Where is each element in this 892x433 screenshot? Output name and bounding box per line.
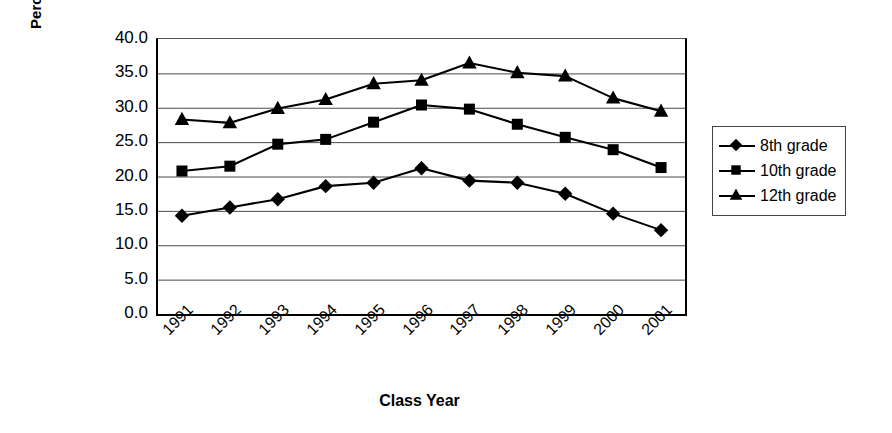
legend-key-square-icon <box>718 161 756 181</box>
x-axis-title: Class Year <box>156 392 683 410</box>
y-axis-tick-label: 15.0 <box>90 201 148 218</box>
y-axis-tick-label: 40.0 <box>90 29 148 46</box>
data-point-marker <box>462 173 476 187</box>
data-point-marker <box>608 144 619 155</box>
data-point-marker <box>656 162 667 173</box>
data-point-marker <box>414 161 428 175</box>
data-point-marker <box>318 179 332 193</box>
data-point-marker <box>368 117 379 128</box>
legend-key-triangle-icon <box>718 186 756 206</box>
data-point-marker <box>730 139 742 151</box>
data-point-marker <box>175 208 189 222</box>
data-point-marker <box>464 104 475 115</box>
y-axis-tick-label: 10.0 <box>90 235 148 252</box>
square-marker-icon <box>730 164 742 176</box>
legend-item-label: 10th grade <box>756 162 837 180</box>
series-3 <box>175 55 669 128</box>
data-point-marker <box>558 186 572 200</box>
series-line <box>182 63 661 123</box>
y-axis-tick-label: 30.0 <box>90 98 148 115</box>
legend-key-diamond-icon <box>718 136 756 156</box>
legend-item-10th-grade: 10th grade <box>718 158 837 183</box>
plot-area <box>156 38 687 316</box>
legend-item-8th-grade: 8th grade <box>718 133 837 158</box>
y-axis-title-line-1: Percent Smoking in Past <box>26 0 45 29</box>
data-point-marker <box>512 119 523 130</box>
y-axis-tick-label: 0.0 <box>90 304 148 321</box>
data-point-marker <box>366 175 380 189</box>
y-axis-title: Percent Smoking in Past Month <box>14 0 76 86</box>
data-point-marker <box>560 132 571 143</box>
data-point-marker <box>462 55 476 68</box>
data-point-marker <box>176 166 187 177</box>
data-point-marker <box>271 192 285 206</box>
data-point-marker <box>510 175 524 189</box>
data-point-marker <box>606 91 620 104</box>
x-axis-tick-labels: 1991199219931994199519961997199819992000… <box>156 318 683 378</box>
data-point-marker <box>730 189 742 200</box>
chart-legend: 8th grade10th grade12th grade <box>712 126 846 216</box>
data-point-marker <box>223 200 237 214</box>
series-1 <box>175 161 668 237</box>
y-axis-tick-labels: 40.035.030.025.020.015.010.05.00.0 <box>82 0 148 433</box>
plot-svg <box>158 39 685 314</box>
triangle-marker-icon <box>730 189 742 201</box>
y-axis-tick-label: 20.0 <box>90 167 148 184</box>
y-axis-tick-label: 5.0 <box>90 270 148 287</box>
data-point-marker <box>416 100 427 111</box>
data-point-marker <box>175 112 189 125</box>
data-point-marker <box>224 161 235 172</box>
y-axis-tick-label: 25.0 <box>90 132 148 149</box>
data-point-marker <box>731 165 740 174</box>
legend-item-label: 8th grade <box>756 137 828 155</box>
line-chart: Percent Smoking in Past Month 40.035.030… <box>0 0 892 433</box>
series-line <box>182 168 661 230</box>
data-point-marker <box>606 206 620 220</box>
data-point-marker <box>654 223 668 237</box>
y-axis-tick-label: 35.0 <box>90 63 148 80</box>
data-point-marker <box>320 134 331 145</box>
legend-item-12th-grade: 12th grade <box>718 183 837 208</box>
diamond-marker-icon <box>730 139 742 151</box>
legend-item-label: 12th grade <box>756 187 837 205</box>
data-point-marker <box>272 139 283 150</box>
